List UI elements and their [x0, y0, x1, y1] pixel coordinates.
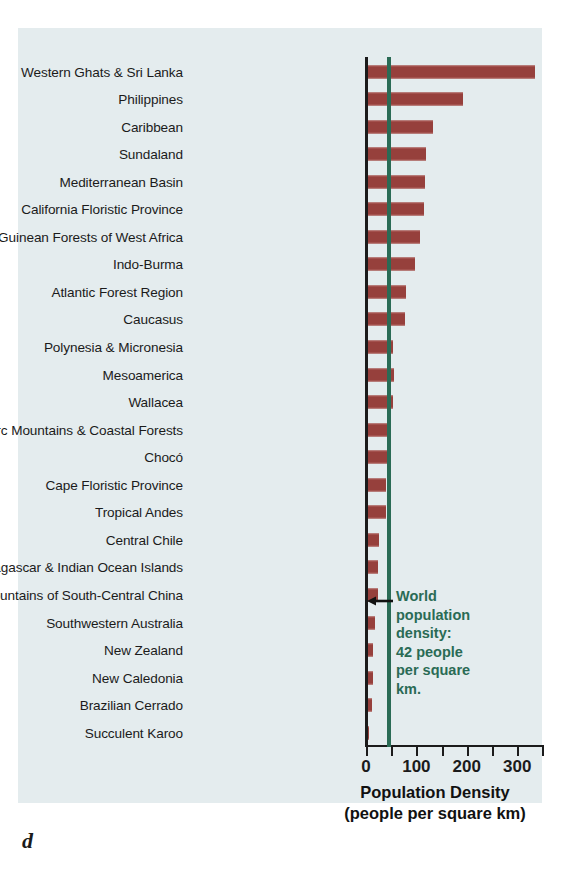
bar-row: Western Ghats & Sri Lanka: [18, 57, 542, 86]
category-label: Eastern Arc Mountains & Coastal Forests: [0, 422, 183, 437]
annotation-arrow-icon: [367, 595, 393, 607]
annotation-line-4: 42 people: [396, 643, 536, 662]
figure-panel-label: d: [22, 828, 33, 854]
bar: [366, 313, 405, 326]
bar: [366, 285, 406, 298]
category-label: Atlantic Forest Region: [51, 284, 183, 299]
category-label: Caucasus: [123, 312, 183, 327]
x-axis-tick: [416, 747, 418, 756]
x-axis-tick: [442, 747, 444, 756]
bar-row: Succulent Karoo: [18, 718, 542, 747]
x-axis-tick: [517, 747, 519, 756]
category-label: Tropical Andes: [95, 505, 183, 520]
category-label: Southwestern Australia: [46, 615, 183, 630]
bar: [366, 451, 387, 464]
bar: [366, 65, 535, 78]
category-label: Madagascar & Indian Ocean Islands: [0, 560, 183, 575]
bar-row: Central Chile: [18, 525, 542, 554]
annotation-line-3: density:: [396, 624, 536, 643]
bar-row: Indo-Burma: [18, 250, 542, 279]
world-density-reference-line: [387, 57, 391, 747]
bar-row: Wallacea: [18, 388, 542, 417]
category-label: California Floristic Province: [21, 202, 183, 217]
bar-row: Guinean Forests of West Africa: [18, 222, 542, 251]
bar-row: Eastern Arc Mountains & Coastal Forests: [18, 415, 542, 444]
bar-row: Caucasus: [18, 305, 542, 334]
category-label: Mountains of South-Central China: [0, 587, 183, 602]
category-label: Mesoamerica: [103, 367, 184, 382]
category-label: Succulent Karoo: [85, 725, 183, 740]
x-axis-tick: [391, 747, 393, 756]
category-label: Philippines: [118, 92, 183, 107]
category-label: Cape Floristic Province: [46, 477, 183, 492]
figure-panel: Western Ghats & Sri LankaPhilippinesCari…: [18, 28, 542, 803]
category-label: Polynesia & Micronesia: [44, 340, 183, 355]
bar: [366, 230, 420, 243]
category-label: Indo-Burma: [113, 257, 183, 272]
bar-row: Madagascar & Indian Ocean Islands: [18, 553, 542, 582]
x-axis-tick-label: 0: [361, 757, 370, 777]
x-axis-title-line-1: Population Density: [328, 782, 542, 803]
bar-chart: Western Ghats & Sri LankaPhilippinesCari…: [18, 28, 542, 803]
category-label: Western Ghats & Sri Lanka: [21, 64, 183, 79]
bar-row: Sundaland: [18, 140, 542, 169]
bar: [366, 203, 424, 216]
bar-row: Tropical Andes: [18, 498, 542, 527]
world-density-annotation: World population density: 42 people per …: [396, 587, 536, 698]
bar: [366, 175, 425, 188]
x-axis-title-line-2: (people per square km): [328, 803, 542, 824]
bar-row: Mediterranean Basin: [18, 167, 542, 196]
bar-row: Cape Floristic Province: [18, 470, 542, 499]
bar: [366, 506, 386, 519]
annotation-line-2: population: [396, 606, 536, 625]
category-label: Mediterranean Basin: [59, 174, 183, 189]
annotation-line-6: km.: [396, 680, 536, 699]
category-label: Caribbean: [121, 119, 183, 134]
bar: [366, 148, 426, 161]
x-axis-tick-label: 100: [402, 757, 430, 777]
y-axis-line: [365, 57, 368, 746]
x-axis-tick: [492, 747, 494, 756]
bar: [366, 120, 433, 133]
bar-row: Polynesia & Micronesia: [18, 333, 542, 362]
category-label: Chocó: [144, 450, 183, 465]
bar-row: Atlantic Forest Region: [18, 277, 542, 306]
bar: [366, 423, 388, 436]
x-axis-tick: [542, 747, 544, 756]
category-label: Brazilian Cerrado: [80, 698, 183, 713]
bar-row: Caribbean: [18, 112, 542, 141]
x-axis-title: Population Density (people per square km…: [328, 782, 542, 824]
category-label: Wallacea: [128, 395, 183, 410]
bar: [366, 478, 386, 491]
bar-row: Mesoamerica: [18, 360, 542, 389]
bar-row: Chocó: [18, 443, 542, 472]
bar-row: Philippines: [18, 85, 542, 114]
bar-row: California Floristic Province: [18, 195, 542, 224]
category-label: Central Chile: [106, 532, 183, 547]
bar: [366, 93, 463, 106]
annotation-line-5: per square: [396, 661, 536, 680]
x-axis-tick: [467, 747, 469, 756]
category-label: New Zealand: [104, 643, 183, 658]
x-axis-tick-label: 300: [503, 757, 531, 777]
annotation-line-1: World: [396, 587, 536, 606]
category-label: New Caledonia: [92, 670, 183, 685]
x-axis-tick: [366, 747, 368, 756]
category-label: Guinean Forests of West Africa: [0, 229, 183, 244]
category-label: Sundaland: [119, 147, 183, 162]
x-axis-tick-label: 200: [453, 757, 481, 777]
